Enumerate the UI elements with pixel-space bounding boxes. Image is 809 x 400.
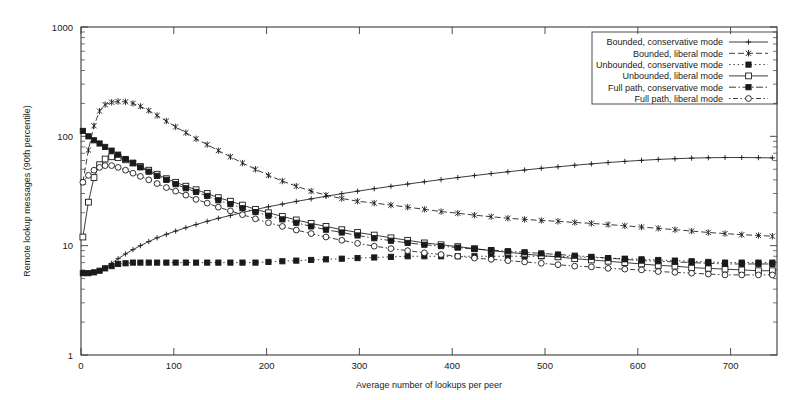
- series-marker-2: [193, 260, 198, 265]
- series-line-1: [83, 102, 773, 237]
- series-marker-1: [103, 101, 108, 107]
- series-marker-5: [183, 192, 189, 198]
- series-marker-4: [183, 186, 188, 191]
- x-axis-tick-label: 100: [166, 360, 182, 371]
- x-axis-tick-label: 0: [78, 360, 83, 371]
- series-marker-4: [472, 247, 477, 252]
- series-marker-0: [116, 256, 121, 261]
- series-marker-5: [173, 188, 179, 194]
- series-marker-5: [80, 179, 86, 185]
- series-marker-2: [253, 260, 258, 265]
- series-marker-4: [739, 261, 744, 266]
- series-marker-0: [294, 199, 299, 204]
- series-marker-5: [639, 267, 645, 273]
- series-marker-4: [164, 177, 169, 182]
- series-marker-4: [323, 227, 328, 232]
- series-marker-4: [656, 259, 661, 264]
- series-marker-0: [672, 156, 677, 161]
- series-marker-4: [91, 138, 96, 143]
- chart-svg: 11010010000100200300400500600700Average …: [0, 0, 809, 400]
- series-marker-0: [455, 175, 460, 180]
- series-marker-2: [130, 260, 135, 265]
- series-marker-0: [656, 157, 661, 162]
- series-marker-5: [505, 258, 511, 264]
- series-marker-0: [309, 196, 314, 201]
- series-marker-1: [266, 172, 271, 178]
- series-marker-1: [173, 124, 178, 130]
- series-marker-5: [154, 181, 160, 187]
- series-marker-0: [193, 222, 198, 227]
- series-marker-0: [388, 184, 393, 189]
- series-marker-4: [606, 255, 611, 260]
- series-marker-2: [405, 254, 410, 259]
- series-marker-5: [86, 172, 92, 178]
- series-marker-2: [372, 255, 377, 260]
- series-marker-2: [103, 266, 108, 271]
- series-marker-2: [240, 260, 245, 265]
- series-marker-4: [146, 169, 151, 174]
- series-marker-4: [138, 165, 143, 170]
- series-marker-4: [455, 245, 460, 250]
- series-marker-5: [102, 163, 108, 169]
- series-marker-0: [355, 189, 360, 194]
- series-marker-4: [505, 249, 510, 254]
- series-marker-4: [489, 248, 494, 253]
- series-marker-0: [539, 166, 544, 171]
- series-marker-4: [103, 144, 108, 149]
- series-marker-4: [216, 198, 221, 203]
- series-marker-4: [130, 160, 135, 165]
- series-marker-5: [739, 272, 745, 278]
- series-marker-0: [739, 155, 744, 160]
- series-marker-0: [722, 155, 727, 160]
- legend-marker-3: [746, 73, 752, 79]
- series-marker-5: [137, 174, 143, 180]
- series-marker-2: [339, 256, 344, 261]
- series-marker-4: [97, 141, 102, 146]
- y-axis-tick-label: 1000: [52, 22, 73, 33]
- series-marker-0: [472, 173, 477, 178]
- series-marker-0: [606, 160, 611, 165]
- series-marker-3: [722, 266, 728, 272]
- series-marker-4: [372, 236, 377, 241]
- series-marker-4: [572, 253, 577, 258]
- series-marker-2: [205, 260, 210, 265]
- series-marker-0: [372, 186, 377, 191]
- series-marker-5: [339, 237, 345, 243]
- series-marker-0: [572, 163, 577, 168]
- series-marker-5: [228, 208, 234, 214]
- series-marker-2: [97, 268, 102, 273]
- legend-marker-2: [746, 62, 751, 67]
- series-marker-1: [205, 141, 210, 147]
- series-marker-2: [216, 260, 221, 265]
- series-marker-5: [655, 269, 661, 275]
- series-marker-2: [173, 260, 178, 265]
- series-marker-1: [97, 108, 102, 114]
- series-marker-0: [173, 228, 178, 233]
- series-marker-4: [294, 220, 299, 225]
- series-marker-5: [472, 255, 478, 261]
- series-marker-0: [183, 225, 188, 230]
- series-marker-2: [116, 261, 121, 266]
- series-marker-0: [266, 204, 271, 209]
- x-axis-label: Average number of lookups per peer: [356, 380, 502, 390]
- series-marker-5: [323, 234, 329, 240]
- series-marker-4: [240, 206, 245, 211]
- series-marker-1: [91, 123, 96, 129]
- series-marker-1: [164, 118, 169, 124]
- series-marker-2: [154, 260, 159, 265]
- x-axis-tick-label: 700: [723, 360, 739, 371]
- series-marker-0: [555, 164, 560, 169]
- legend-label-3: Unbounded, liberal mode: [622, 71, 723, 81]
- series-marker-5: [215, 204, 221, 210]
- series-marker-0: [216, 216, 221, 221]
- series-marker-1: [183, 129, 188, 135]
- series-marker-0: [164, 232, 169, 237]
- series-marker-4: [756, 261, 761, 266]
- series-marker-5: [266, 220, 272, 226]
- series-marker-5: [193, 196, 199, 202]
- series-marker-4: [722, 261, 727, 266]
- series-marker-0: [438, 177, 443, 182]
- series-marker-1: [86, 147, 91, 153]
- series-marker-3: [109, 154, 115, 160]
- legend-label-2: Unbounded, conservative mode: [596, 60, 723, 70]
